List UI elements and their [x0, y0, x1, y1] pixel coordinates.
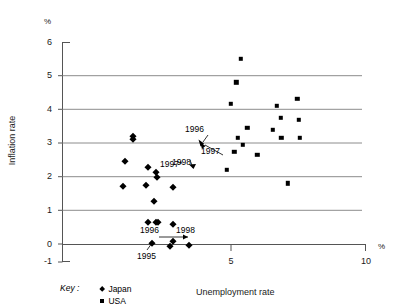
- annotation-japan-1997: 1997*: [160, 160, 182, 169]
- legend-item-japan: Japan: [100, 283, 132, 294]
- x-tick-label-10: 10: [356, 257, 376, 266]
- annotation-japan-1996: 1996: [140, 226, 159, 235]
- x-axis-title: Unemployment rate: [196, 288, 275, 297]
- scatter-chart: % 6 5 4 3 2 1 0 -1 5 10 % Inflation rate…: [0, 0, 404, 308]
- x-axis-unit: %: [378, 243, 385, 251]
- annotation-japan-1995: 1995: [137, 252, 156, 261]
- annotation-usa-1996: 1996: [185, 125, 204, 134]
- leader-usa-1996: [203, 135, 208, 142]
- y-tick-label-0: 0: [30, 240, 52, 249]
- legend-label-usa: USA: [108, 296, 125, 306]
- y-tick-label-minus-1: -1: [26, 257, 52, 266]
- legend-item-usa: USA: [100, 295, 126, 306]
- diamond-marker-icon: [99, 286, 105, 292]
- y-axis-title: Inflation rate: [8, 106, 17, 176]
- y-axis-unit: %: [44, 18, 51, 26]
- annotation-usa-1997: 1997: [201, 147, 220, 156]
- y-tick-label-5: 5: [30, 71, 52, 80]
- x-tick-label-5: 5: [221, 257, 241, 266]
- legend-key-label: Key :: [60, 283, 79, 293]
- y-tick-label-1: 1: [30, 206, 52, 215]
- square-marker-icon: [100, 299, 104, 303]
- y-tick-label-4: 4: [30, 105, 52, 114]
- legend-label-japan: Japan: [108, 284, 131, 294]
- y-tick-label-2: 2: [30, 172, 52, 181]
- y-tick-label-6: 6: [30, 38, 52, 47]
- y-tick-label-3: 3: [30, 138, 52, 147]
- annotation-japan-1998: 1998: [176, 226, 195, 235]
